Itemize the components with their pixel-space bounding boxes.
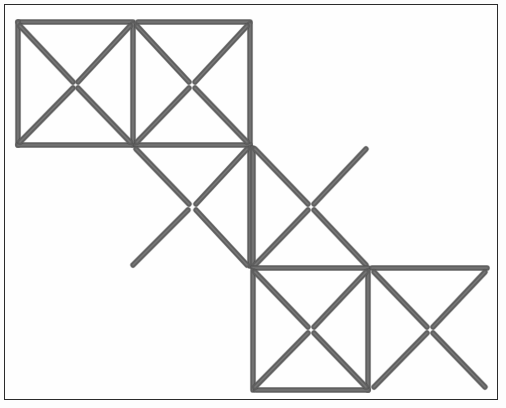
stick-13-highlight — [195, 26, 247, 82]
stick-15-highlight — [195, 88, 247, 142]
stick-31-highlight — [255, 272, 308, 327]
matchstick-figure-stage — [0, 0, 506, 408]
stick-08-highlight — [20, 26, 73, 82]
stick-14-highlight — [137, 88, 189, 142]
stick-35-highlight — [374, 272, 427, 327]
stick-32-highlight — [314, 272, 366, 327]
stick-23-highlight — [314, 149, 366, 204]
stick-24-highlight — [255, 210, 308, 265]
stick-17-highlight — [136, 149, 189, 204]
stick-19-highlight — [133, 210, 188, 265]
stick-25-highlight — [314, 210, 366, 265]
stick-34-highlight — [314, 333, 366, 387]
matchstick-canvas — [0, 0, 506, 408]
stick-38-highlight — [433, 333, 485, 387]
stick-18-highlight — [196, 149, 247, 204]
stick-36-highlight — [433, 272, 485, 327]
stick-20-highlight — [196, 210, 247, 265]
matchsticks-group — [18, 22, 487, 390]
stick-11-highlight — [78, 88, 130, 142]
stick-12-highlight — [137, 26, 189, 82]
stick-09-highlight — [78, 26, 130, 82]
stick-37-highlight — [374, 333, 427, 387]
stick-10-highlight — [20, 88, 73, 142]
stick-33-highlight — [255, 333, 308, 387]
stick-22-highlight — [255, 149, 308, 204]
